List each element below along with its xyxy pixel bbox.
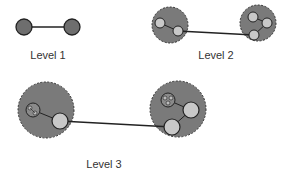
- level-3-label: Level 3: [86, 158, 121, 170]
- level-3-subcluster: [26, 103, 40, 117]
- level-3-node: [52, 113, 68, 129]
- level-2-node: [249, 30, 259, 40]
- level-3-graph: [18, 81, 206, 138]
- level-3-subnode: [169, 96, 173, 100]
- level-1-node-right: [64, 19, 80, 35]
- level-2-node: [248, 12, 258, 22]
- level-2-node: [262, 18, 272, 28]
- level-2-label: Level 2: [198, 49, 233, 61]
- level-2-node: [173, 26, 183, 36]
- level-3-node: [164, 119, 180, 135]
- level-1-graph: [16, 19, 80, 35]
- level-1-label: Level 1: [30, 49, 65, 61]
- level-3-subnode: [166, 101, 170, 105]
- level-2-graph: [152, 5, 276, 43]
- level-1-node-left: [16, 19, 32, 35]
- hierarchy-diagram: [0, 0, 291, 179]
- level-2-node: [155, 18, 165, 28]
- level-3-node: [183, 102, 199, 118]
- level-3-subnode: [163, 96, 167, 100]
